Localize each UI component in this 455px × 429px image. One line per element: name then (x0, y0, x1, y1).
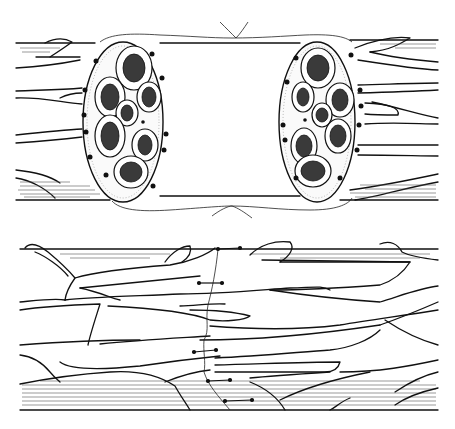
bottom-panel-repaired-nerve (20, 242, 438, 410)
coaptation-line (204, 249, 230, 410)
epineural-sutures (193, 247, 254, 403)
top-panel-transected-nerve (16, 22, 438, 218)
illustration-canvas (0, 0, 455, 429)
nerve-repair-figure (0, 0, 455, 429)
right-cross-section (279, 42, 364, 202)
left-cross-section (82, 42, 169, 202)
